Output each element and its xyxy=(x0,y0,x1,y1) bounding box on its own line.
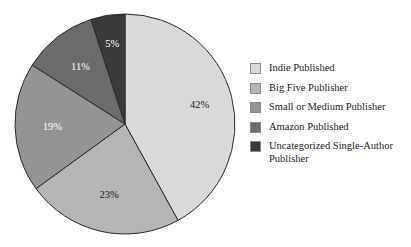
legend-swatch-icon xyxy=(250,102,261,113)
pie-slice-value-label: 5% xyxy=(105,38,119,49)
legend-item-label: Indie Published xyxy=(269,62,335,75)
legend-item-label: Amazon Published xyxy=(269,121,349,134)
legend-item-big-five-publisher[interactable]: Big Five Publisher xyxy=(250,82,411,95)
legend-item-small-or-medium-publisher[interactable]: Small or Medium Publisher xyxy=(250,101,411,114)
pie-slice-value-label: 11% xyxy=(71,61,90,72)
pie-chart-plot-area: 42%23%19%11%5% xyxy=(14,8,238,240)
legend-item-indie-published[interactable]: Indie Published xyxy=(250,62,411,75)
legend-item-label: Uncategorized Single-Author Publisher xyxy=(269,140,393,165)
legend-item-amazon-published[interactable]: Amazon Published xyxy=(250,121,411,134)
pie-slice-value-label: 42% xyxy=(190,99,210,110)
legend-swatch-icon xyxy=(250,122,261,133)
pie-chart-svg: 42%23%19%11%5% xyxy=(14,8,238,240)
pie-chart-figure: 42%23%19%11%5% Indie Published Big Five … xyxy=(0,0,411,247)
pie-slice-value-label: 23% xyxy=(100,189,120,200)
legend-item-uncategorized-single-author-publisher[interactable]: Uncategorized Single-Author Publisher xyxy=(250,140,411,165)
legend-item-label: Big Five Publisher xyxy=(269,82,348,95)
legend-swatch-icon xyxy=(250,83,261,94)
legend-swatch-icon xyxy=(250,63,261,74)
legend-swatch-icon xyxy=(250,141,261,152)
chart-legend: Indie Published Big Five Publisher Small… xyxy=(250,62,411,172)
legend-item-label: Small or Medium Publisher xyxy=(269,101,385,114)
pie-slice-value-label: 19% xyxy=(43,121,63,132)
